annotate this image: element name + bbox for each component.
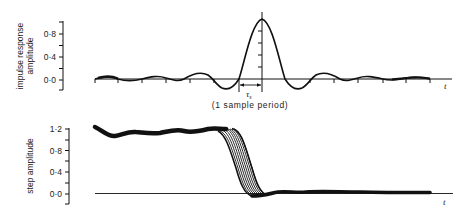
top-ytick-0.0: 0·0 [44,75,57,85]
bottom-ytick-0.4: 0·4 [50,167,63,177]
impulse-response-panel: 0·8 0·4 0·0 impulse response amplitude t [15,12,452,110]
top-xlabel-t: t [444,81,447,91]
tau-label: τs [246,89,252,100]
figure: 0·8 0·4 0·0 impulse response amplitude t [0,0,465,214]
tau-dimension [239,78,261,92]
step-upper-band [95,127,226,136]
top-ylabel-line2: amplitude [25,37,35,74]
step-response-panel: 1·2 0·8 0·4 0·0 step amplitude t [25,124,453,207]
bottom-y-ticks [65,129,69,204]
top-ytick-0.8: 0·8 [44,29,57,39]
bottom-xlabel-t: t [443,197,446,207]
top-ylabel-line1: impulse response [15,22,25,89]
top-ytick-0.4: 0·4 [44,52,57,62]
bottom-ytick-0.8: 0·8 [50,146,63,156]
top-y-ticks [59,22,63,90]
bottom-ytick-0.0: 0·0 [50,189,63,199]
peak-marker-ticks [258,31,262,67]
sample-period-annotation: (1 sample period) [212,100,288,110]
bottom-ytick-1.2: 1·2 [50,124,63,134]
impulse-overlap-left [98,76,118,78]
bottom-ylabel: step amplitude [25,138,35,194]
